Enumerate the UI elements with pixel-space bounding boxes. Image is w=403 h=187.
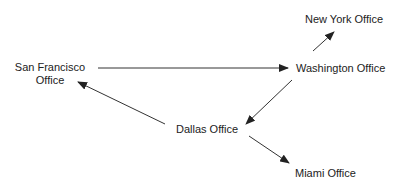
- edge-dallas-to-sf: [78, 82, 165, 124]
- node-dallas-office: Dallas Office: [176, 123, 238, 136]
- node-label-line1: San Francisco: [10, 61, 90, 74]
- node-label: New York Office: [305, 13, 383, 26]
- node-label: Dallas Office: [176, 123, 238, 136]
- node-label: Miami Office: [295, 167, 356, 180]
- edge-washington-to-dallas: [246, 80, 292, 124]
- edge-washington-to-newyork: [313, 32, 334, 51]
- node-san-francisco-office: San Francisco Office: [10, 61, 90, 87]
- office-network-diagram: [0, 0, 403, 187]
- node-new-york-office: New York Office: [305, 13, 383, 26]
- node-washington-office: Washington Office: [296, 62, 385, 75]
- node-label: Washington Office: [296, 62, 385, 75]
- node-label-line2: Office: [10, 74, 90, 87]
- edge-dallas-to-miami: [249, 136, 289, 163]
- node-miami-office: Miami Office: [295, 167, 356, 180]
